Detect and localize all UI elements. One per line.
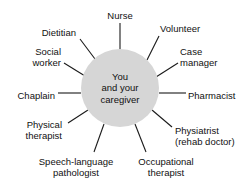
spoke-line-case-manager [156, 63, 178, 77]
node-label-dietitian: Dietitian [42, 27, 76, 38]
node-label-physiatrist: Physiatrist (rehab doctor) [175, 125, 235, 147]
spoke-line-occupational-therapist [135, 124, 146, 152]
node-label-nurse: Nurse [107, 10, 132, 21]
care-team-diagram: You and your caregiver NurseVolunteerCas… [0, 0, 246, 189]
hub-label: You and your caregiver [81, 49, 159, 127]
node-label-volunteer: Volunteer [160, 23, 200, 34]
node-label-occupational-therapist: Occupational therapist [138, 156, 193, 178]
node-label-pharmacist: Pharmacist [188, 90, 236, 101]
node-label-chaplain: Chaplain [18, 90, 56, 101]
node-label-social-worker: Social worker [32, 46, 61, 68]
node-label-case-manager: Case manager [180, 46, 218, 68]
spoke-line-speech-language-pathologist [94, 124, 104, 152]
node-label-speech-language-pathologist: Speech-language pathologist [39, 156, 113, 178]
node-label-physical-therapist: Physical therapist [26, 119, 62, 141]
hub-circle: You and your caregiver [81, 49, 159, 127]
